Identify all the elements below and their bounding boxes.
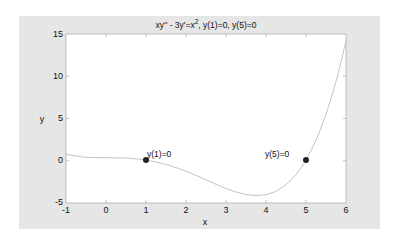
x-tick-label: 6 — [343, 205, 348, 215]
y-tick-label: 15 — [53, 29, 63, 39]
plot-area — [66, 34, 346, 203]
annotation-y5: y(5)=0 — [265, 149, 290, 159]
x-tick-label: 3 — [223, 205, 228, 215]
chart-svg: xy'' - 3y'=x2, y(1)=0, y(5)=0 15 10 5 0 … — [0, 0, 396, 245]
x-tick-label: 0 — [103, 205, 108, 215]
boundary-point-y5 — [303, 157, 309, 163]
x-tick-label: -1 — [62, 205, 70, 215]
x-tick-label: 2 — [183, 205, 188, 215]
annotation-y1: y(1)=0 — [147, 149, 172, 159]
chart-title: xy'' - 3y'=x2, y(1)=0, y(5)=0 — [156, 18, 257, 30]
x-tick-labels: -1 0 1 2 3 4 5 6 — [62, 205, 349, 215]
y-tick-label: 10 — [53, 71, 63, 81]
x-tick-label: 1 — [143, 205, 148, 215]
x-tick-label: 5 — [303, 205, 308, 215]
y-tick-labels: 15 10 5 0 -5 — [53, 29, 63, 207]
y-axis-label: y — [40, 114, 45, 124]
x-tick-label: 4 — [263, 205, 268, 215]
y-tick-label: 0 — [58, 155, 63, 165]
y-tick-label: 5 — [58, 113, 63, 123]
x-axis-label: x — [203, 217, 208, 227]
